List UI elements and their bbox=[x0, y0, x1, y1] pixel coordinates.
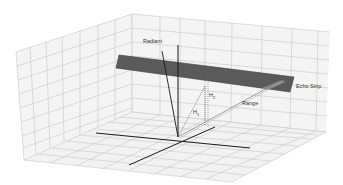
radar-geometry-diagram: Radiant Echo Strip Range H2 H1 bbox=[0, 0, 343, 185]
radiant-label: Radiant bbox=[143, 38, 162, 44]
echo-strip-label: Echo Strip bbox=[296, 83, 321, 89]
range-label: Range bbox=[242, 100, 258, 106]
